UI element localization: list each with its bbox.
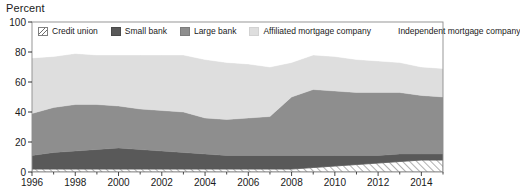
legend-label: Independent mortgage company (398, 27, 520, 36)
legend-label: Small bank (125, 27, 167, 36)
legend-label: Large bank (194, 27, 237, 36)
dark-gray-swatch-icon (111, 27, 121, 36)
legend-item-affiliated-mortgage-company[interactable]: Affiliated mortgage company (249, 27, 371, 36)
legend-item-independent-mortgage-company[interactable]: Independent mortgage company (384, 27, 520, 36)
mid-gray-swatch-icon (180, 27, 190, 36)
area-series-group (32, 22, 443, 172)
hatch-swatch-icon (38, 27, 48, 36)
chart-legend: Credit union Small bank Large bank Affil… (38, 27, 520, 36)
light-gray-swatch-icon (249, 27, 259, 36)
legend-item-credit-union[interactable]: Credit union (38, 27, 98, 36)
legend-label: Credit union (52, 27, 98, 36)
legend-item-small-bank[interactable]: Small bank (111, 27, 167, 36)
legend-item-large-bank[interactable]: Large bank (180, 27, 237, 36)
white-swatch-icon (384, 27, 394, 36)
legend-label: Affiliated mortgage company (263, 27, 371, 36)
